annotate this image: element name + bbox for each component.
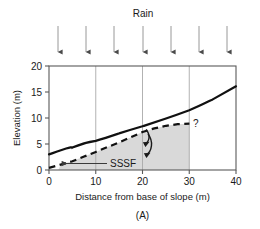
xtick-label-30: 30: [184, 176, 196, 187]
ytick-label-5: 5: [36, 139, 42, 150]
x-axis-ticks: [49, 170, 236, 174]
ytick-label-15: 15: [31, 87, 43, 98]
ytick-label-10: 10: [31, 113, 43, 124]
y-axis-title: Elevation (m): [11, 90, 22, 146]
chart-svg: Rain: [0, 0, 260, 229]
panel-label: (A): [136, 210, 149, 221]
rain-title: Rain: [133, 8, 154, 19]
sssf-label: SSSF: [110, 158, 136, 169]
question-mark-label: ?: [193, 118, 199, 129]
rain-arrows-group: [58, 26, 227, 52]
figure-panel-a: Rain: [0, 0, 260, 229]
x-axis-title: Distance from base of slope (m): [75, 191, 210, 202]
xtick-label-20: 20: [137, 176, 149, 187]
xtick-label-0: 0: [46, 176, 52, 187]
xtick-label-40: 40: [230, 176, 242, 187]
ytick-label-0: 0: [36, 165, 42, 176]
xtick-label-10: 10: [90, 176, 102, 187]
ytick-label-20: 20: [31, 61, 43, 72]
